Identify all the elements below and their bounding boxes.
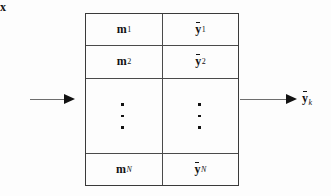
table-cell-value-2: y2 [162, 45, 239, 78]
table-cell-value-1: y1 [162, 14, 239, 45]
input-label: x [0, 0, 6, 15]
output-subscript: k [309, 98, 313, 107]
table-cell-key-1: m1 [86, 14, 162, 45]
input-symbol: x [0, 0, 6, 14]
memory-value-subscript: N [201, 165, 206, 174]
table-cell-value-n: yN [162, 153, 239, 186]
ellipsis-dot [121, 103, 124, 106]
output-arrow-line [240, 99, 288, 100]
memory-table: m1 y1 m2 y2 mN yN [85, 13, 239, 186]
vertical-ellipsis-icon [119, 103, 126, 129]
memory-value-symbol: y [195, 162, 201, 177]
ellipsis-dot [121, 126, 124, 129]
output-arrowhead-icon [286, 94, 297, 104]
associative-memory-diagram: x m1 y1 m2 y2 mN yN [0, 0, 331, 196]
memory-value-subscript: 1 [202, 25, 206, 34]
memory-key-symbol: m [117, 54, 127, 69]
output-label: yk [302, 91, 312, 107]
vertical-ellipsis-icon [196, 103, 203, 129]
memory-value-subscript: 2 [202, 57, 206, 66]
table-cell-key-n: mN [86, 153, 162, 186]
table-cell-key-2: m2 [86, 45, 162, 78]
memory-value-symbol: y [195, 54, 201, 69]
memory-key-subscript: 2 [127, 57, 131, 66]
input-arrow-line [30, 99, 66, 100]
ellipsis-dot [198, 115, 201, 118]
memory-key-symbol: m [117, 22, 127, 37]
ellipsis-dot [121, 115, 124, 118]
memory-key-subscript: 1 [127, 25, 131, 34]
ellipsis-dot [198, 126, 201, 129]
memory-key-symbol: m [116, 162, 126, 177]
memory-key-subscript: N [127, 165, 132, 174]
memory-value-symbol: y [195, 22, 201, 37]
ellipsis-dot [198, 103, 201, 106]
input-arrowhead-icon [64, 94, 75, 104]
output-symbol: y [302, 91, 308, 105]
